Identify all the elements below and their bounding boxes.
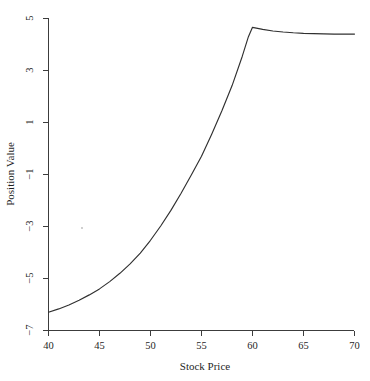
x-tick-label: 55 bbox=[196, 340, 207, 351]
x-tick-label: 60 bbox=[247, 340, 258, 351]
x-tick-label: 70 bbox=[349, 340, 360, 351]
y-tick-label: 1 bbox=[24, 119, 35, 124]
scan-speck bbox=[81, 227, 83, 229]
x-tick-label: 40 bbox=[43, 340, 54, 351]
position-value-chart: 5 3 1 −1 −3 −5 −7 40 45 50 55 60 65 70 P… bbox=[0, 0, 370, 381]
x-tick-label: 45 bbox=[94, 340, 105, 351]
y-tick-label: 5 bbox=[24, 15, 35, 20]
x-axis-title: Stock Price bbox=[180, 360, 231, 372]
y-axis-title: Position Value bbox=[4, 142, 16, 206]
y-tick-label: −3 bbox=[24, 220, 35, 231]
y-tick-label: 3 bbox=[24, 67, 35, 72]
x-tick-label: 65 bbox=[298, 340, 309, 351]
y-tick-label: −5 bbox=[24, 272, 35, 283]
y-tick-label: −7 bbox=[24, 324, 35, 335]
chart-background bbox=[0, 0, 370, 381]
y-tick-label: −1 bbox=[24, 168, 35, 179]
x-tick-label: 50 bbox=[145, 340, 156, 351]
